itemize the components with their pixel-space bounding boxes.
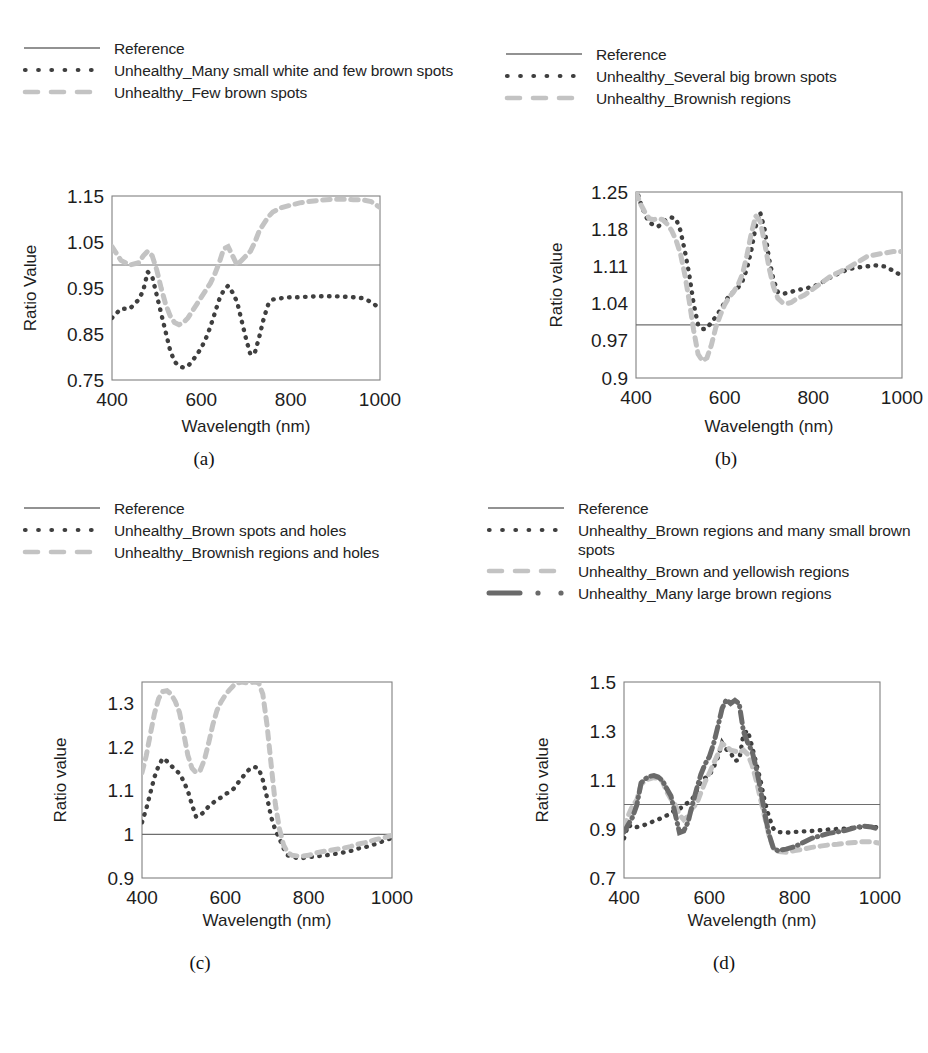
legend-swatch-dashed-icon <box>22 542 108 562</box>
svg-text:0.75: 0.75 <box>67 370 104 391</box>
svg-text:1.11: 1.11 <box>592 256 628 277</box>
svg-text:Ratio value: Ratio value <box>533 737 552 822</box>
legend-entry-dotted[interactable]: Unhealthy_Brown spots and holes <box>22 520 462 540</box>
svg-text:Wavelength (nm): Wavelength (nm) <box>688 911 817 930</box>
svg-text:1000: 1000 <box>371 887 413 908</box>
legend-swatch-dotted-icon <box>504 66 590 86</box>
legend-label: Unhealthy_Several big brown spots <box>596 66 837 86</box>
svg-text:Wavelength (nm): Wavelength (nm) <box>182 417 311 436</box>
svg-text:1.05: 1.05 <box>67 232 104 253</box>
figure-grid: ReferenceUnhealthy_Many small white and … <box>0 0 928 1053</box>
svg-text:1000: 1000 <box>859 887 901 908</box>
legend-swatch-solid-line-icon <box>486 498 572 518</box>
legend-label: Unhealthy_Brown and yellowish regions <box>578 561 849 581</box>
caption-c: (c) <box>0 952 432 974</box>
legend-label: Unhealthy_Brown regions and many small b… <box>578 520 928 559</box>
svg-text:1.3: 1.3 <box>108 693 134 714</box>
svg-text:0.9: 0.9 <box>590 819 616 840</box>
svg-text:0.7: 0.7 <box>590 868 616 889</box>
legend-entry-solid-line[interactable]: Reference <box>22 498 462 518</box>
legend-label: Reference <box>596 44 667 64</box>
svg-text:1.18: 1.18 <box>591 219 628 240</box>
legend-label: Unhealthy_Many large brown regions <box>578 583 831 603</box>
svg-text:800: 800 <box>293 887 325 908</box>
svg-text:400: 400 <box>96 389 128 410</box>
legend-entry-dash-dot[interactable]: Unhealthy_Many large brown regions <box>486 583 928 603</box>
plot-c: 0.911.11.21.34006008001000Ratio valueWav… <box>30 670 494 938</box>
svg-text:Wavelength (nm): Wavelength (nm) <box>705 417 834 436</box>
svg-text:400: 400 <box>608 887 640 908</box>
legend-c: ReferenceUnhealthy_Brown spots and holes… <box>22 498 462 564</box>
legend-entry-dashed[interactable]: Unhealthy_Few brown spots <box>22 82 462 102</box>
svg-text:0.9: 0.9 <box>108 868 134 889</box>
legend-entry-dashed[interactable]: Unhealthy_Brownish regions and holes <box>22 542 462 562</box>
svg-text:1.3: 1.3 <box>590 721 616 742</box>
svg-text:0.95: 0.95 <box>67 278 104 299</box>
legend-entry-dashed[interactable]: Unhealthy_Brownish regions <box>504 88 924 108</box>
legend-label: Unhealthy_Many small white and few brown… <box>114 60 453 80</box>
caption-b: (b) <box>494 448 928 470</box>
legend-swatch-dotted-icon <box>486 520 572 540</box>
svg-text:Ratio value: Ratio value <box>547 242 566 327</box>
legend-entry-solid-line[interactable]: Reference <box>504 44 924 64</box>
svg-text:0.9: 0.9 <box>602 368 628 389</box>
svg-text:600: 600 <box>209 887 241 908</box>
legend-label: Unhealthy_Brown spots and holes <box>114 520 346 540</box>
legend-label: Reference <box>114 498 185 518</box>
plot-d: 0.70.91.11.31.54006008001000Ratio valueW… <box>512 670 928 938</box>
svg-text:1.1: 1.1 <box>108 780 134 801</box>
legend-b: ReferenceUnhealthy_Several big brown spo… <box>504 44 924 110</box>
svg-text:Ratio Value: Ratio Value <box>21 245 40 332</box>
caption-d: (d) <box>492 952 928 974</box>
svg-text:1.15: 1.15 <box>67 186 104 207</box>
legend-swatch-solid-line-icon <box>504 44 590 64</box>
svg-text:0.97: 0.97 <box>591 330 628 351</box>
panel-b: ReferenceUnhealthy_Several big brown spo… <box>464 0 928 480</box>
legend-entry-dashed[interactable]: Unhealthy_Brown and yellowish regions <box>486 561 928 581</box>
legend-swatch-dashed-icon <box>486 561 572 581</box>
svg-text:1.04: 1.04 <box>591 293 628 314</box>
svg-text:800: 800 <box>779 887 811 908</box>
plot-a: 0.750.850.951.051.154006008001000Ratio V… <box>0 182 464 444</box>
legend-swatch-dashed-icon <box>504 88 590 108</box>
svg-text:Ratio value: Ratio value <box>51 737 70 822</box>
panel-d: ReferenceUnhealthy_Brown regions and man… <box>464 480 928 1053</box>
legend-d: ReferenceUnhealthy_Brown regions and man… <box>486 498 928 605</box>
legend-entry-dotted[interactable]: Unhealthy_Brown regions and many small b… <box>486 520 928 559</box>
svg-text:600: 600 <box>709 387 741 408</box>
legend-entry-dotted[interactable]: Unhealthy_Many small white and few brown… <box>22 60 462 80</box>
legend-label: Reference <box>114 38 185 58</box>
svg-text:1000: 1000 <box>881 387 923 408</box>
legend-label: Unhealthy_Brownish regions and holes <box>114 542 379 562</box>
svg-text:Wavelength (nm): Wavelength (nm) <box>203 911 332 930</box>
legend-entry-solid-line[interactable]: Reference <box>486 498 928 518</box>
svg-text:1.1: 1.1 <box>590 770 616 791</box>
svg-text:1.2: 1.2 <box>108 737 134 758</box>
svg-text:600: 600 <box>185 389 217 410</box>
legend-entry-solid-line[interactable]: Reference <box>22 38 462 58</box>
svg-text:1: 1 <box>123 824 134 845</box>
panel-a: ReferenceUnhealthy_Many small white and … <box>0 0 464 480</box>
legend-entry-dotted[interactable]: Unhealthy_Several big brown spots <box>504 66 924 86</box>
legend-a: ReferenceUnhealthy_Many small white and … <box>22 38 462 104</box>
svg-text:1000: 1000 <box>359 389 401 410</box>
plot-b: 0.90.971.041.111.181.254006008001000Rati… <box>518 182 928 444</box>
legend-swatch-dotted-icon <box>22 520 108 540</box>
legend-label: Unhealthy_Brownish regions <box>596 88 791 108</box>
svg-text:800: 800 <box>797 387 829 408</box>
legend-swatch-dashed-icon <box>22 82 108 102</box>
legend-label: Reference <box>578 498 649 518</box>
svg-text:1.5: 1.5 <box>590 672 616 693</box>
caption-a: (a) <box>0 448 436 470</box>
legend-swatch-solid-line-icon <box>22 38 108 58</box>
legend-label: Unhealthy_Few brown spots <box>114 82 307 102</box>
legend-swatch-dotted-icon <box>22 60 108 80</box>
svg-text:800: 800 <box>275 389 307 410</box>
panel-c: ReferenceUnhealthy_Brown spots and holes… <box>0 480 464 1053</box>
svg-text:0.85: 0.85 <box>67 324 104 345</box>
svg-text:400: 400 <box>126 887 158 908</box>
legend-swatch-solid-line-icon <box>22 498 108 518</box>
svg-text:600: 600 <box>693 887 725 908</box>
svg-text:1.25: 1.25 <box>591 182 628 203</box>
legend-swatch-dash-dot-icon <box>486 583 572 603</box>
